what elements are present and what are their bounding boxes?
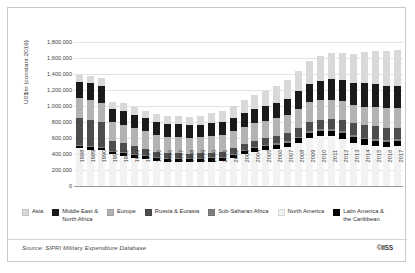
bar-segment [394, 108, 401, 128]
bar-segment [142, 111, 149, 119]
bar-segment [383, 128, 390, 140]
x-axis-tick: 1998 [184, 152, 195, 206]
legend-item[interactable]: Europe [107, 208, 136, 216]
bar-segment [120, 111, 127, 125]
legend-item[interactable]: Russia & Eurasia [145, 208, 199, 216]
bar-segment [306, 84, 313, 102]
legend-label: Middle East & North Africa [62, 208, 98, 223]
bar-segment [306, 122, 313, 132]
bar-segment [262, 106, 269, 120]
bar-segment [339, 53, 346, 81]
bar-segment [372, 126, 379, 139]
bar-segment [361, 83, 368, 106]
legend-item[interactable]: Sub-Saharan Africa [208, 208, 268, 216]
x-axis-tick: 2001 [217, 152, 228, 206]
bar-segment [87, 83, 94, 100]
bar-segment [98, 86, 105, 103]
x-axis-tick: 1991 [107, 152, 118, 206]
legend-item[interactable]: Latin America & the Caribbean [333, 208, 384, 223]
y-axis-tick-label: 400,000 [52, 151, 72, 157]
legend-swatch-icon [208, 209, 215, 216]
bar-segment [251, 123, 258, 141]
bar-segment [120, 103, 127, 111]
y-axis-tick-label: 0 [69, 183, 72, 189]
bar-segment [197, 125, 204, 137]
bar-segment [98, 122, 105, 146]
y-axis-tick-label: 600,000 [52, 135, 72, 141]
legend-label: Asia [32, 208, 43, 216]
x-axis-tick: 1992 [118, 152, 129, 206]
bar-segment [76, 82, 83, 98]
bar-segment [208, 123, 215, 135]
bar-segment [175, 116, 182, 124]
footer-divider [8, 239, 407, 240]
y-axis-tick-label: 1,400,000 [47, 71, 72, 77]
bar-segment [251, 95, 258, 109]
legend-item[interactable]: Middle East & North Africa [52, 208, 98, 223]
legend-label: Russia & Eurasia [155, 208, 199, 216]
x-axis-tick: 2011 [326, 152, 337, 206]
legend-swatch-icon [278, 209, 285, 216]
x-axis-tick: 2015 [370, 152, 381, 206]
bar-segment [394, 50, 401, 86]
bar-segment [317, 100, 324, 120]
bar-segment [284, 133, 291, 141]
x-axis-tick: 1997 [173, 152, 184, 206]
bar-segment [361, 107, 368, 125]
bar-segment [131, 107, 138, 115]
bar-segment [153, 122, 160, 135]
bar-segment [284, 99, 291, 115]
chart-figure: US$m (constant 2016) 0200,000400,000600,… [0, 0, 415, 273]
bar-segment [295, 71, 302, 92]
bar-segment [317, 120, 324, 130]
bar-segment [153, 114, 160, 122]
bar-segment [350, 105, 357, 124]
bar-segment [339, 80, 346, 101]
bar-segment [328, 119, 335, 129]
x-axis-tick: 2009 [304, 152, 315, 206]
bar-segment [76, 98, 83, 118]
bar-segment [131, 115, 138, 128]
x-axis-tick: 2012 [337, 152, 348, 206]
bar-segment [164, 116, 171, 124]
y-axis-tick-label: 1,600,000 [47, 55, 72, 61]
bar-segment [251, 109, 258, 123]
bar-segment [328, 53, 335, 79]
x-axis-tick: 1989 [85, 152, 96, 206]
bar-segment [87, 76, 94, 84]
x-axis-tick: 2014 [359, 152, 370, 206]
bar-segment [394, 128, 401, 139]
bar-segment [109, 109, 116, 122]
source-note: Source: SIPRI Military Expenditure Datab… [22, 245, 146, 251]
bar-segment [142, 131, 149, 148]
x-axis-tick: 2005 [260, 152, 271, 206]
bar-segment [241, 100, 248, 113]
bar-segment [284, 115, 291, 133]
bar-segment [372, 84, 379, 107]
x-axis-ticks: 1988198919901991199219931994199519961997… [74, 152, 403, 206]
x-axis-tick: 1995 [151, 152, 162, 206]
bar-segment [230, 106, 237, 118]
bar-segment [273, 118, 280, 136]
bar-segment [219, 111, 226, 122]
x-axis-tick: 2013 [348, 152, 359, 206]
copyright-mark: ©IISS [377, 244, 393, 251]
bar-segment [361, 52, 368, 83]
bar-segment [164, 124, 171, 136]
bar-segment [208, 113, 215, 123]
legend-swatch-icon [107, 209, 114, 216]
legend-item[interactable]: North America [278, 208, 325, 216]
bar-segment [98, 103, 105, 123]
bar-segment [273, 103, 280, 118]
legend-item[interactable]: Asia [22, 208, 43, 216]
bar-segment [76, 75, 83, 82]
x-axis-tick-label: 2017 [398, 150, 404, 163]
bar-segment [262, 121, 269, 139]
bar-segment [76, 118, 83, 144]
y-axis-tick-label: 800,000 [52, 119, 72, 125]
bar-segment [262, 91, 269, 107]
x-axis-tick: 1996 [162, 152, 173, 206]
x-axis-tick: 2003 [239, 152, 250, 206]
bar-segment [230, 131, 237, 148]
bar-segment [219, 122, 226, 135]
